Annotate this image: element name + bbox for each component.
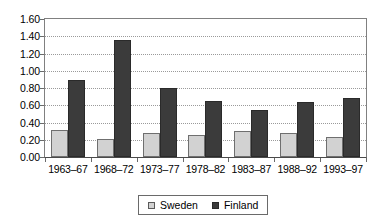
bar-finland [114,40,131,157]
chart-legend: Sweden Finland [138,195,268,215]
x-axis-tick-label: 1973–77 [134,163,186,175]
y-axis-tick-label: 0.00 [0,152,40,162]
y-axis-tick-label: 1.60 [0,14,40,24]
bar-finland [160,88,177,157]
bar-group [183,19,229,157]
bar-finland [251,110,268,157]
bar-sweden [51,130,68,157]
bar-sweden [97,139,114,157]
bar-group [320,19,366,157]
bar-sweden [234,131,251,157]
x-axis-tick-mark [366,158,367,162]
y-axis-tick-label: 0.20 [0,135,40,145]
x-axis-tick-label: 1988–92 [271,163,323,175]
y-axis-tick-label: 0.40 [0,118,40,128]
x-axis-tick-mark [91,158,92,162]
x-axis-tick-label: 1993–97 [317,163,369,175]
bar-sweden [143,133,160,157]
bar-group [45,19,91,157]
legend-item-finland: Finland [212,200,258,211]
x-axis-tick-mark [45,158,46,162]
x-axis-tick-mark [320,158,321,162]
x-axis-tick-label: 1978–82 [180,163,232,175]
bar-finland [68,80,85,157]
legend-label-sweden: Sweden [160,200,198,211]
bar-sweden [280,133,297,157]
y-axis-tick-label: 0.60 [0,100,40,110]
y-axis-tick-label: 1.00 [0,66,40,76]
y-axis-tick-label: 0.80 [0,83,40,93]
legend-swatch-sweden-icon [148,202,155,209]
y-axis-tick-label: 1.20 [0,49,40,59]
bar-group [228,19,274,157]
legend-item-sweden: Sweden [148,200,198,211]
bar-chart: 0.000.200.400.600.801.001.201.401.60 196… [0,0,385,223]
y-axis-tick-label: 1.40 [0,31,40,41]
x-axis-tick-mark [183,158,184,162]
bar-group [274,19,320,157]
bar-sweden [188,135,205,157]
x-axis-tick-mark [228,158,229,162]
x-axis-tick-label: 1968–72 [88,163,140,175]
x-axis-tick-label: 1963–67 [42,163,94,175]
bar-finland [297,102,314,157]
bar-sweden [326,137,343,157]
bar-finland [205,101,222,157]
bar-group [91,19,137,157]
bar-finland [343,98,360,158]
x-axis-tick-label: 1983–87 [225,163,277,175]
x-axis-tick-mark [137,158,138,162]
legend-label-finland: Finland [224,200,258,211]
bars-layer [45,19,366,157]
x-axis-tick-mark [274,158,275,162]
legend-swatch-finland-icon [212,202,219,209]
bar-group [137,19,183,157]
